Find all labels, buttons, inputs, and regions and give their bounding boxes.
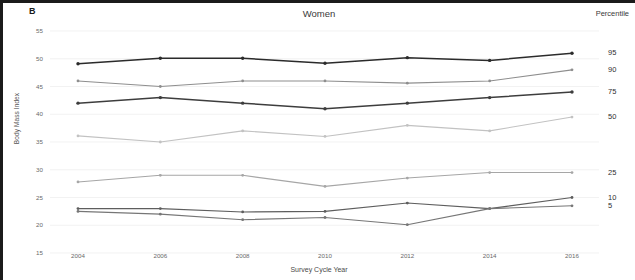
figure-screenshot: B Women Percentile Body Mass Index Surve…	[0, 0, 635, 280]
series-label-90: 90	[608, 65, 616, 74]
data-point	[324, 80, 327, 83]
series-line-75	[78, 92, 572, 109]
data-point	[570, 90, 573, 93]
data-point	[571, 171, 574, 174]
data-point	[159, 174, 162, 177]
data-point	[570, 52, 573, 55]
data-point	[241, 211, 244, 214]
data-point	[406, 101, 409, 104]
data-point	[76, 62, 79, 65]
data-point	[76, 101, 79, 104]
data-point	[488, 59, 491, 62]
data-point	[241, 130, 244, 133]
data-point	[488, 130, 491, 133]
data-point	[241, 101, 244, 104]
data-point	[488, 80, 491, 83]
data-point	[488, 96, 491, 99]
series-label-95: 95	[608, 48, 616, 57]
line-chart-plot	[3, 3, 635, 280]
data-point	[324, 135, 327, 138]
data-point	[406, 56, 409, 59]
data-point	[159, 96, 162, 99]
data-point	[77, 80, 80, 83]
series-label-50: 50	[608, 112, 616, 121]
figure-panel: B Women Percentile Body Mass Index Surve…	[3, 3, 635, 280]
data-point	[324, 216, 327, 219]
data-series-layer	[76, 52, 573, 227]
data-point	[324, 185, 327, 188]
data-point	[406, 177, 409, 180]
series-line-10	[78, 198, 572, 212]
data-point	[159, 56, 162, 59]
data-point	[406, 202, 409, 205]
data-point	[571, 116, 574, 119]
data-point	[406, 124, 409, 127]
series-line-25	[78, 173, 572, 187]
data-point	[159, 85, 162, 88]
data-point	[77, 207, 80, 210]
data-point	[571, 196, 574, 199]
data-point	[241, 174, 244, 177]
series-line-50	[78, 117, 572, 142]
data-point	[406, 82, 409, 85]
data-point	[77, 134, 80, 137]
data-point	[241, 80, 244, 83]
data-point	[323, 107, 326, 110]
data-point	[324, 210, 327, 213]
series-label-25: 25	[608, 168, 616, 177]
data-point	[159, 141, 162, 144]
data-point	[571, 204, 574, 207]
data-point	[159, 207, 162, 210]
data-point	[77, 181, 80, 184]
data-point	[159, 213, 162, 216]
data-point	[241, 218, 244, 221]
series-label-75: 75	[608, 87, 616, 96]
data-point	[241, 56, 244, 59]
series-label-5: 5	[608, 201, 612, 210]
data-point	[323, 61, 326, 64]
data-point	[77, 210, 80, 213]
data-point	[488, 207, 491, 210]
series-line-90	[78, 70, 572, 87]
data-point	[406, 223, 409, 226]
data-point	[571, 68, 574, 71]
data-point	[488, 171, 491, 174]
